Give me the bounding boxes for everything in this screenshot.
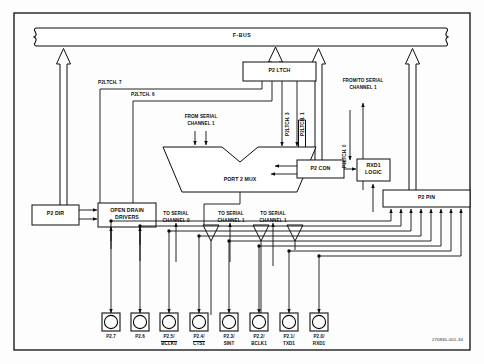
mux-input-serial1 xyxy=(195,131,206,145)
port2-block-diagram: F-BUS P2 LTCH P2LTCH. 7 P2LTCH. 6 P2LTCH… xyxy=(0,0,484,364)
pin-label-7-name: P2.0/ xyxy=(299,334,339,339)
block-label-p2pin: P2 PIN xyxy=(383,195,470,201)
signal-label-to-serial1b-line1: TO SERIAL xyxy=(245,211,301,216)
block-label-p2con: P2 CON xyxy=(297,166,344,172)
signal-label-p2ltch0: P2LTCH. 0 xyxy=(342,144,347,168)
buffer-triangle-1 xyxy=(203,225,219,241)
signal-label-fromto-serial1-line2: CHANNEL 1 xyxy=(330,85,396,90)
bus-label: F-BUS xyxy=(0,33,484,39)
block-label-port2mux: PORT 2 MUX xyxy=(196,177,284,183)
signal-label-to-serial0-line1: TO SERIAL xyxy=(148,211,204,216)
figure-id: 270830-001-34 xyxy=(383,337,463,342)
buffer-triangle-3 xyxy=(287,225,303,241)
p2dir-input-arrow xyxy=(57,64,71,212)
bus-arrow-p2pin xyxy=(406,49,420,193)
pin-alt-7: RXD1 xyxy=(299,341,339,346)
signal-label-fromto-serial1-line1: FROM/TO SERIAL xyxy=(330,78,396,83)
opendrain-outputs xyxy=(111,227,140,261)
signal-label-p2ltch7: P2LTCH. 7 xyxy=(98,80,122,85)
signal-label-to-serial0-line2: CHANNEL 0 xyxy=(148,218,204,223)
signal-label-p2ltch3: P2LTCH. 3 xyxy=(285,112,290,136)
p2pin-feedback-routes xyxy=(111,221,461,256)
signal-label-from-serial1-line2: CHANNEL 1 xyxy=(170,121,232,126)
signal-label-p2ltch1: P2LTCH. 1 xyxy=(300,112,305,136)
pin-drops xyxy=(111,221,319,313)
block-label-p2ltch: P2 LTCH xyxy=(243,68,316,74)
p2pin-inputs xyxy=(391,209,461,256)
p2dir-to-opendrain xyxy=(79,210,97,219)
signal-label-from-serial1-line1: FROM SERIAL xyxy=(170,114,232,119)
block-label-rxd1-logic: LOGIC xyxy=(357,170,390,176)
buffer-triangle-2 xyxy=(253,225,269,241)
block-label-p2dir: P2 DIR xyxy=(32,211,79,217)
block-port2-mux xyxy=(163,147,316,192)
pin-pads xyxy=(102,313,328,331)
buffer-outputs xyxy=(211,241,295,315)
signal-label-p2ltch6: P2LTCH. 6 xyxy=(131,92,155,97)
signal-label-to-serial1b-line2: CHANNEL 1 xyxy=(245,218,301,223)
